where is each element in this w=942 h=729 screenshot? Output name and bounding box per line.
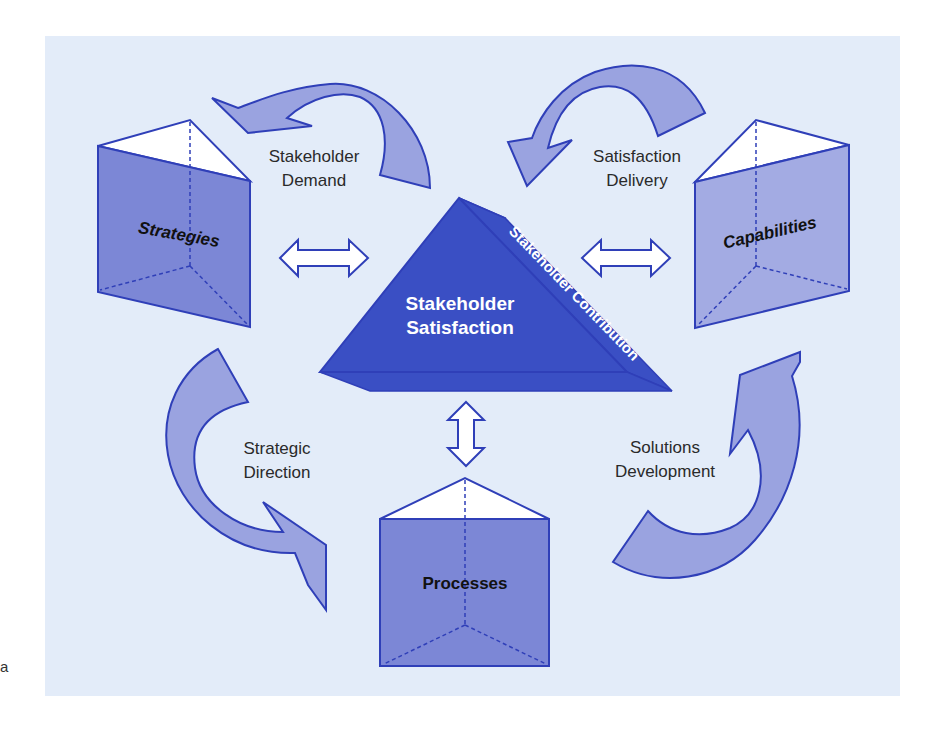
double-arrow-right-icon — [582, 240, 670, 276]
solutions-development-label-line2: Development — [615, 462, 715, 481]
double-arrow-vertical-icon — [448, 402, 484, 466]
stakeholder-satisfaction-triangle: Stakeholder Satisfaction Stakeholder Con… — [320, 198, 672, 391]
satisfaction-delivery-arrow-icon — [508, 66, 705, 186]
stakeholder-demand-label-line1: Stakeholder — [269, 147, 360, 166]
capabilities-prism: Capabilities — [695, 120, 849, 328]
satisfaction-delivery-label-line2: Delivery — [606, 171, 668, 190]
processes-label: Processes — [422, 574, 507, 593]
double-arrow-left-icon — [280, 240, 368, 276]
strategic-direction-label-line1: Strategic — [243, 439, 311, 458]
solutions-development-label-line1: Solutions — [630, 438, 700, 457]
performance-prism-diagram: Strategies Capabilities Processes Stakeh… — [0, 0, 942, 729]
strategic-direction-label-line2: Direction — [243, 463, 310, 482]
center-title-line1: Stakeholder — [406, 293, 515, 314]
processes-prism: Processes — [380, 478, 549, 666]
stakeholder-demand-label-line2: Demand — [282, 171, 346, 190]
strategies-prism: Strategies — [98, 120, 250, 327]
center-title-line2: Satisfaction — [406, 317, 514, 338]
satisfaction-delivery-label-line1: Satisfaction — [593, 147, 681, 166]
